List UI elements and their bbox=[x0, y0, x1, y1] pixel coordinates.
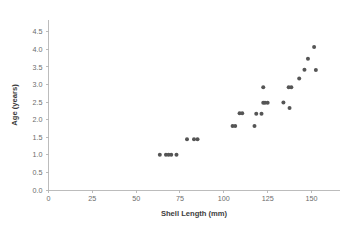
data-point bbox=[261, 85, 265, 89]
y-tick-label: 2.0 bbox=[33, 115, 43, 124]
y-tick-label: 0.5 bbox=[33, 168, 43, 177]
data-point bbox=[266, 101, 270, 105]
x-tick-label: 75 bbox=[176, 194, 184, 203]
x-axis-title: Shell Length (mm) bbox=[161, 209, 228, 218]
y-tick-label: 3.0 bbox=[33, 80, 43, 89]
data-point bbox=[314, 68, 318, 72]
y-tick-label: 4.5 bbox=[33, 27, 43, 36]
y-tick-label: 4.0 bbox=[33, 45, 43, 54]
data-point bbox=[174, 153, 178, 157]
data-point bbox=[196, 137, 200, 141]
data-point bbox=[302, 68, 306, 72]
scatter-chart: 0.00.51.01.52.02.53.03.54.04.5 025507510… bbox=[0, 0, 355, 226]
y-axis: 0.00.51.01.52.02.53.03.54.04.5 bbox=[33, 20, 49, 195]
x-tick-label: 25 bbox=[88, 194, 96, 203]
data-point bbox=[240, 111, 244, 115]
y-tick-label: 0.0 bbox=[33, 186, 43, 195]
y-axis-title: Age (years) bbox=[10, 84, 19, 126]
chart-canvas: 0.00.51.01.52.02.53.03.54.04.5 025507510… bbox=[0, 0, 355, 226]
x-tick-label: 0 bbox=[47, 194, 51, 203]
data-point bbox=[297, 77, 301, 81]
data-point bbox=[312, 45, 316, 49]
data-point bbox=[169, 153, 173, 157]
data-point bbox=[288, 106, 292, 110]
x-tick-label: 50 bbox=[132, 194, 140, 203]
data-point bbox=[254, 112, 258, 116]
x-tick-label: 150 bbox=[305, 194, 317, 203]
data-point bbox=[192, 137, 196, 141]
data-point bbox=[306, 57, 310, 61]
y-tick-label: 1.5 bbox=[33, 133, 43, 142]
data-point bbox=[281, 100, 285, 104]
y-tick-label: 1.0 bbox=[33, 150, 43, 159]
data-point bbox=[233, 124, 237, 128]
data-point bbox=[289, 85, 293, 89]
data-point bbox=[158, 153, 162, 157]
data-point bbox=[185, 137, 189, 141]
x-axis: 0255075100125150 bbox=[47, 190, 341, 203]
x-tick-group: 0255075100125150 bbox=[47, 190, 318, 203]
y-tick-group: 0.00.51.01.52.02.53.03.54.04.5 bbox=[33, 27, 49, 194]
y-tick-label: 2.5 bbox=[33, 98, 43, 107]
y-tick-label: 3.5 bbox=[33, 63, 43, 72]
x-tick-label: 125 bbox=[262, 194, 274, 203]
x-tick-label: 100 bbox=[218, 194, 230, 203]
data-point bbox=[260, 112, 264, 116]
data-points-group bbox=[158, 45, 318, 157]
data-point bbox=[252, 124, 256, 128]
